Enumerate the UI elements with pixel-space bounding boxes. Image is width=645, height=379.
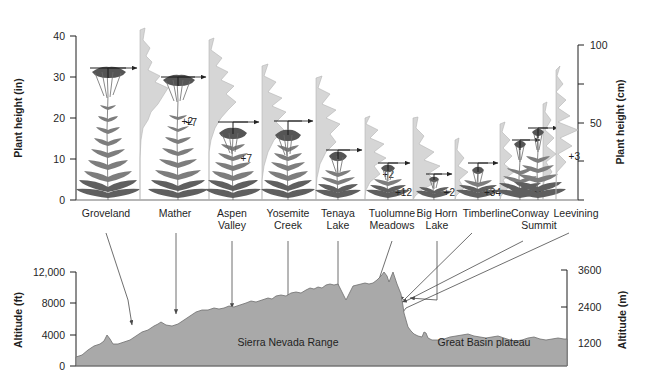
top-right-tick-100: 100 xyxy=(590,39,608,51)
delta-label-tuolumne-meadows: +12 xyxy=(395,187,412,198)
figure-svg: 0 10 20 30 40 Plant height (in) 50 100 xyxy=(0,0,645,379)
arrow-conway-summit xyxy=(402,300,408,302)
delta-label-big-horn-lake: +2 xyxy=(444,187,456,198)
site-label-aspen-valley-1: Aspen xyxy=(217,207,247,219)
delta-label-timberline: +34 xyxy=(484,187,501,198)
bottom-left-axis: 0 4000 8000 12,000 Altitude (ft) xyxy=(12,266,76,372)
plant-illustration-groveland xyxy=(76,67,140,200)
bottom-right-axis: 3600 2400 1200 Altitude (m) xyxy=(561,264,628,366)
bottom-left-tick-8000: 8000 xyxy=(42,297,66,309)
top-right-tick-50: 50 xyxy=(590,117,602,129)
site-label-conway-summit-1: Conway xyxy=(511,207,550,219)
site-label-aspen-valley-2: Valley xyxy=(218,219,247,231)
bottom-right-axis-title: Altitude (m) xyxy=(616,291,628,349)
bottom-left-tick-12000: 12,000 xyxy=(33,266,65,278)
mean-marker-tuolumne-meadows xyxy=(378,163,398,171)
bottom-panel: 0 4000 8000 12,000 Altitude (ft) 3600 24… xyxy=(12,264,628,372)
site-label-groveland: Groveland xyxy=(82,207,131,219)
site-label-tuolumne-meadows-1: Tuolumne xyxy=(369,207,415,219)
site-label-yosemite-creek-2: Creek xyxy=(274,219,303,231)
site-label-big-horn-lake-1: Big Horn xyxy=(417,207,458,219)
site-label-big-horn-lake-2: Lake xyxy=(426,219,449,231)
top-left-tick-20: 20 xyxy=(53,112,65,124)
site-label-timberline: Timberline xyxy=(463,207,512,219)
bottom-left-tick-0: 0 xyxy=(59,360,65,372)
top-left-axis-title: Plant height (in) xyxy=(12,78,24,157)
top-left-tick-0: 0 xyxy=(59,194,65,206)
top-left-tick-10: 10 xyxy=(53,153,65,165)
region-label-sierra-nevada: Sierra Nevada Range xyxy=(238,336,339,348)
delta-label-leevining: +3 xyxy=(569,151,581,162)
mean-marker-timberline xyxy=(468,163,488,172)
site-group-aspen-valley: +7 Aspen Valley xyxy=(186,64,286,231)
top-left-tick-30: 30 xyxy=(53,71,65,83)
delta-label-aspen-valley: +7 xyxy=(186,117,198,128)
site-label-mather: Mather xyxy=(159,207,192,219)
bottom-right-tick-1200: 1200 xyxy=(578,337,602,349)
site-label-tenaya-lake-2: Lake xyxy=(327,219,350,231)
top-right-axis-title: Plant height (cm) xyxy=(614,79,626,164)
site-label-tuolumne-meadows-2: Meadows xyxy=(370,219,415,231)
elevation-profile-terrain xyxy=(76,272,567,366)
height-distribution-leevining xyxy=(556,66,578,200)
site-label-conway-summit-2: Summit xyxy=(521,219,557,231)
bottom-left-axis-title: Altitude (ft) xyxy=(12,292,24,348)
region-label-great-basin: Great Basin plateau xyxy=(438,336,531,348)
site-label-yosemite-creek-1: Yosemite xyxy=(267,207,310,219)
delta-label-yosemite-creek: +7 xyxy=(241,153,253,164)
mean-marker-tenaya-lake xyxy=(326,150,350,159)
plant-illustration-aspen-valley xyxy=(205,128,261,200)
top-left-tick-40: 40 xyxy=(53,30,65,42)
top-right-axis: 50 100 Plant height (cm) xyxy=(578,39,626,200)
bottom-right-tick-3600: 3600 xyxy=(578,264,602,276)
figure-root: 0 10 20 30 40 Plant height (in) 50 100 xyxy=(0,0,645,379)
top-left-axis: 0 10 20 30 40 Plant height (in) xyxy=(12,30,76,206)
top-panel: 0 10 20 30 40 Plant height (in) 50 100 xyxy=(12,28,626,231)
site-label-leevining: Leevining xyxy=(554,207,599,219)
site-label-tenaya-lake-1: Tenaya xyxy=(321,207,355,219)
bottom-right-tick-2400: 2400 xyxy=(578,301,602,313)
bottom-left-tick-4000: 4000 xyxy=(42,329,66,341)
arrow-groveland xyxy=(128,300,132,325)
